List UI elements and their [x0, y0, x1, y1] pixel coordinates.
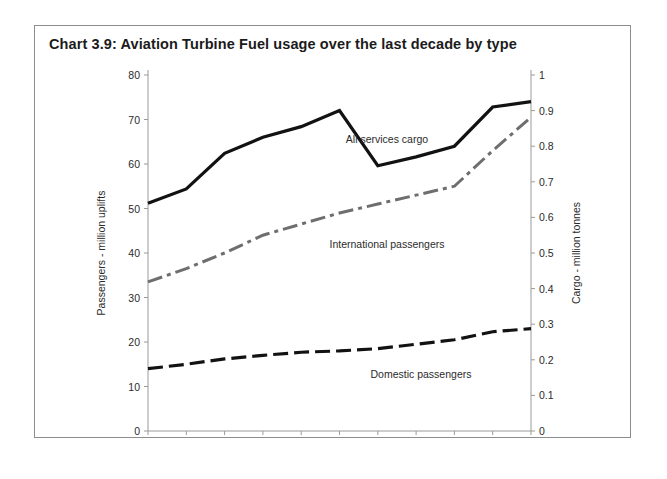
left-tick-label: 30	[128, 292, 140, 304]
right-tick-label: 0.2	[539, 354, 554, 366]
left-tick-label: 40	[128, 247, 140, 259]
left-tick-label: 10	[128, 381, 140, 393]
left-tick-label: 50	[128, 203, 140, 215]
right-tick-label: 0.3	[539, 318, 554, 330]
right-tick-label: 0.9	[539, 105, 554, 117]
right-tick-label: 0.4	[539, 283, 554, 295]
left-tick-label: 20	[128, 336, 140, 348]
right-tick-label: 0	[539, 425, 545, 437]
series-line-domestic	[148, 329, 531, 369]
series-line-international	[148, 117, 531, 282]
right-axis-title: Cargo - million tonnes	[570, 202, 582, 304]
left-tick-label: 80	[128, 69, 140, 81]
chart-svg: 0102030405060708000.10.20.30.40.50.60.70…	[35, 26, 632, 439]
right-tick-label: 0.8	[539, 140, 554, 152]
series-label-cargo: All services cargo	[346, 133, 428, 145]
series-label-international: International passengers	[330, 238, 445, 250]
right-tick-label: 0.5	[539, 247, 554, 259]
left-tick-label: 60	[128, 158, 140, 170]
left-tick-label: 70	[128, 114, 140, 126]
right-tick-label: 0.1	[539, 389, 554, 401]
right-tick-label: 0.7	[539, 176, 554, 188]
right-tick-label: 1	[539, 69, 545, 81]
series-line-cargo	[148, 102, 531, 203]
left-tick-label: 0	[134, 425, 140, 437]
left-axis-title: Passengers - million uplifts	[95, 191, 107, 316]
right-tick-label: 0.6	[539, 211, 554, 223]
series-label-domestic: Domestic passengers	[371, 368, 472, 380]
chart-frame: Chart 3.9: Aviation Turbine Fuel usage o…	[34, 25, 631, 438]
plot-area: 0102030405060708000.10.20.30.40.50.60.70…	[35, 26, 632, 439]
